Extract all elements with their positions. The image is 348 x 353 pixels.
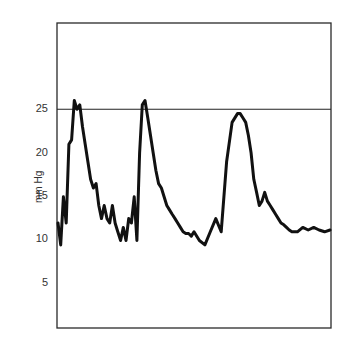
pressure-chart bbox=[0, 0, 348, 353]
waveform-line bbox=[58, 101, 330, 245]
plot-frame bbox=[57, 23, 331, 328]
y-tick-20: 20 bbox=[18, 146, 48, 158]
y-tick-10: 10 bbox=[18, 232, 48, 244]
y-axis-label: mm Hg bbox=[33, 171, 44, 203]
y-tick-25: 25 bbox=[18, 102, 48, 114]
y-tick-5: 5 bbox=[18, 276, 48, 288]
